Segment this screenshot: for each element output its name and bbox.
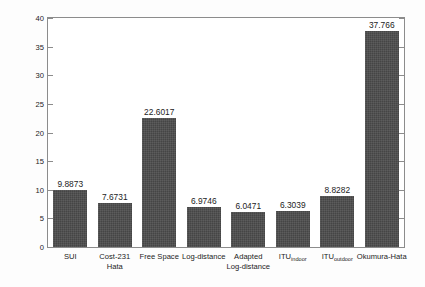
bar-value-label: 8.8282	[324, 185, 350, 195]
x-tick-label: Free Space	[140, 252, 179, 262]
y-tick-label: 25	[22, 99, 44, 108]
x-tick-label: SUI	[64, 252, 77, 262]
bar-value-label: 6.9746	[191, 196, 217, 206]
chart-figure: Root Mean Square Error [dB] 051015202530…	[0, 0, 425, 287]
bar	[187, 207, 221, 247]
bar-value-label: 22.6017	[144, 107, 174, 117]
y-tick-mark-right	[399, 247, 404, 248]
y-tick-label: 5	[22, 214, 44, 223]
bar-value-label: 7.6731	[102, 192, 128, 202]
y-tick-mark	[48, 247, 53, 248]
bar-value-label: 9.8873	[57, 179, 83, 189]
plot-area: 0510152025303540	[47, 17, 405, 248]
x-tick-label: Log-distance	[182, 252, 225, 262]
y-tick-label: 0	[22, 243, 44, 252]
bar-value-label: 6.3039	[280, 200, 306, 210]
bar	[365, 31, 399, 247]
x-tick-label: AdaptedLog-distance	[227, 252, 270, 271]
bars-layer	[48, 18, 404, 247]
bar	[320, 196, 354, 247]
x-tick-label: Okumura-Hata	[357, 252, 407, 262]
y-tick-label: 40	[22, 14, 44, 23]
bar	[276, 211, 310, 247]
x-tick-label: ITUoutdoor	[322, 252, 353, 263]
y-tick-label: 30	[22, 71, 44, 80]
y-tick-label: 20	[22, 128, 44, 137]
bar	[53, 190, 87, 247]
bar-value-label: 37.766	[369, 20, 395, 30]
bar	[231, 212, 265, 247]
bar	[98, 203, 132, 247]
y-tick-label: 15	[22, 157, 44, 166]
x-tick-label: Cost-231Hata	[99, 252, 130, 271]
bar-value-label: 6.0471	[235, 201, 261, 211]
y-tick-label: 35	[22, 42, 44, 51]
x-tick-label: ITUindoor	[279, 252, 307, 263]
bar	[142, 118, 176, 247]
y-tick-label: 10	[22, 185, 44, 194]
